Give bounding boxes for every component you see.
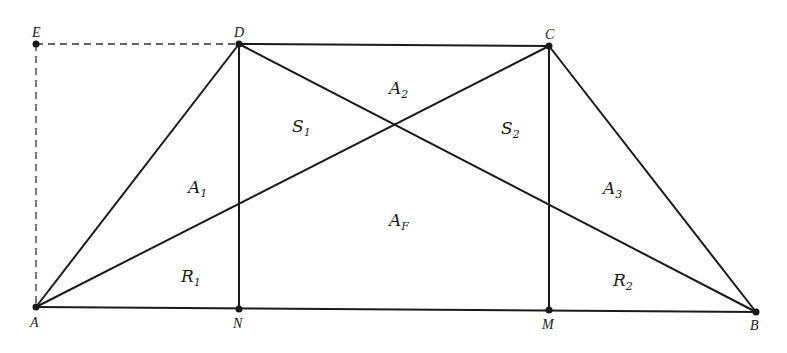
label-B: B xyxy=(750,318,759,333)
region-label-A1: A1 xyxy=(186,177,207,200)
label-A: A xyxy=(29,315,39,330)
region-label-AF: AF xyxy=(387,210,409,233)
label-M: M xyxy=(541,317,555,332)
region-label-S2: S2 xyxy=(501,118,520,141)
diagonal-AC xyxy=(36,46,549,307)
point-D xyxy=(236,41,243,48)
point-C xyxy=(546,43,553,50)
label-N: N xyxy=(232,316,243,331)
region-label-A2: A2 xyxy=(387,78,408,101)
edge-CB xyxy=(549,46,756,312)
trapezoid-diagram: E D C A N M B A2 S1 S2 A1 A3 AF R1 R2 xyxy=(0,0,787,353)
edge-DC xyxy=(239,44,549,46)
point-B xyxy=(753,309,760,316)
region-label-R1: R1 xyxy=(180,266,201,289)
region-label-A3: A3 xyxy=(601,178,622,201)
region-label-R2: R2 xyxy=(612,270,633,293)
edge-AD xyxy=(36,44,239,307)
label-E: E xyxy=(31,25,41,40)
label-C: C xyxy=(545,27,555,42)
point-N xyxy=(236,306,243,313)
diagonal-DB xyxy=(239,44,756,312)
point-M xyxy=(546,307,553,314)
edge-AB xyxy=(36,307,756,312)
point-E xyxy=(33,41,40,48)
point-A xyxy=(33,304,40,311)
label-D: D xyxy=(233,25,244,40)
region-label-S1: S1 xyxy=(292,116,311,139)
